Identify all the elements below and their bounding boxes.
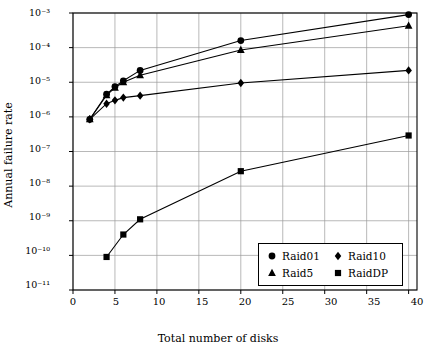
legend-svg: Raid01Raid10Raid5RaidDP	[258, 243, 403, 286]
svg-text:RaidDP: RaidDP	[348, 267, 388, 279]
svg-text:Raid10: Raid10	[348, 250, 386, 262]
svg-text:Raid01: Raid01	[282, 250, 320, 262]
legend: Raid01Raid10Raid5RaidDP	[258, 243, 403, 286]
chart-container: Annual failure rate 10⁻³ 10⁻⁴ 10⁻⁵ 10⁻⁶ …	[0, 0, 436, 350]
plot-area	[0, 0, 436, 350]
svg-text:Raid5: Raid5	[282, 267, 313, 279]
